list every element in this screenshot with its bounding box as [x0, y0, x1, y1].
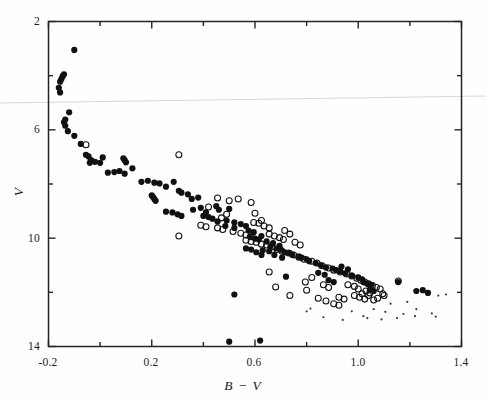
data-point [304, 287, 310, 293]
data-point [351, 310, 353, 312]
xtick-label-3: 1.0 [351, 356, 366, 368]
data-point [342, 319, 344, 321]
data-point [57, 79, 63, 85]
data-point [415, 308, 417, 310]
data-point [243, 245, 249, 251]
scan-fold-line-artifact [0, 96, 486, 103]
y-axis-title: V [11, 188, 27, 196]
data-point [122, 171, 128, 177]
data-point [248, 199, 254, 205]
data-point [176, 152, 182, 158]
data-point [176, 233, 182, 239]
data-point [200, 213, 206, 219]
data-point [231, 291, 237, 297]
data-point [431, 312, 433, 314]
data-point [384, 311, 386, 313]
data-point [445, 293, 447, 295]
xtick-label-1: 0.2 [144, 356, 159, 368]
xtick-label-4: 1.4 [454, 356, 469, 368]
data-point [402, 313, 404, 315]
data-point [425, 290, 431, 296]
data-point [258, 252, 264, 258]
data-point [371, 297, 377, 303]
data-point [258, 233, 264, 239]
plot-frame [49, 22, 462, 347]
data-point [215, 195, 221, 201]
data-point [306, 310, 308, 312]
data-point [145, 178, 151, 184]
data-point [87, 160, 93, 166]
data-point [92, 159, 98, 165]
ytick-label-3: 14 [19, 340, 40, 352]
data-point [341, 296, 347, 302]
data-point [71, 133, 77, 139]
data-point [71, 47, 77, 53]
data-point [322, 316, 324, 318]
data-point [323, 298, 329, 304]
data-point [380, 291, 386, 297]
data-point [163, 209, 169, 215]
data-point [105, 170, 111, 176]
data-point [331, 279, 337, 285]
data-point [437, 294, 439, 296]
data-point [189, 196, 195, 202]
data-point [156, 180, 162, 186]
data-point [57, 89, 63, 95]
data-point [66, 109, 72, 115]
data-point [226, 339, 232, 345]
data-points-layer [56, 47, 447, 345]
data-point [198, 205, 204, 211]
data-point [309, 307, 311, 309]
data-point [413, 288, 419, 294]
xtick-label-0: -0.2 [38, 356, 57, 368]
data-point [214, 218, 220, 224]
data-point [62, 123, 68, 129]
data-point [235, 196, 241, 202]
data-point [266, 269, 272, 275]
data-point [389, 303, 391, 305]
data-point [231, 225, 237, 231]
data-point [406, 301, 408, 303]
ytick-label-1: 6 [26, 123, 40, 135]
data-point [231, 219, 237, 225]
data-point [65, 128, 71, 134]
data-point [315, 295, 321, 301]
data-point [216, 207, 222, 213]
ytick-label-2: 10 [19, 232, 40, 244]
data-point [279, 255, 285, 261]
data-point [366, 317, 368, 319]
data-point [97, 160, 103, 166]
data-point [297, 242, 303, 248]
data-point [380, 318, 382, 320]
data-point [315, 270, 321, 276]
data-point [100, 154, 106, 160]
x-axis-title: B − V [224, 378, 261, 394]
data-point [287, 231, 293, 237]
data-point [322, 272, 328, 278]
data-point [373, 308, 375, 310]
data-point [206, 204, 212, 210]
data-point [266, 225, 272, 231]
data-point [123, 159, 129, 165]
data-point [83, 142, 89, 148]
data-point [153, 198, 159, 204]
data-point [171, 179, 177, 185]
data-point [345, 282, 351, 288]
data-point [226, 198, 232, 204]
data-point [111, 169, 117, 175]
data-point [138, 179, 144, 185]
color-magnitude-diagram-figure: -0.2 0.2 0.6 1.0 1.4 2 6 10 14 B − V V [0, 0, 486, 404]
data-point [218, 215, 224, 221]
data-point [375, 295, 381, 301]
data-point [414, 315, 416, 317]
data-point [435, 316, 437, 318]
ytick-label-0: 2 [26, 15, 40, 27]
data-point [362, 315, 364, 317]
data-point [273, 284, 279, 290]
data-point [362, 296, 368, 302]
axis-ticks [49, 22, 462, 347]
data-point [283, 274, 289, 280]
data-point [302, 279, 308, 285]
data-point [195, 194, 201, 200]
data-point [396, 317, 398, 319]
